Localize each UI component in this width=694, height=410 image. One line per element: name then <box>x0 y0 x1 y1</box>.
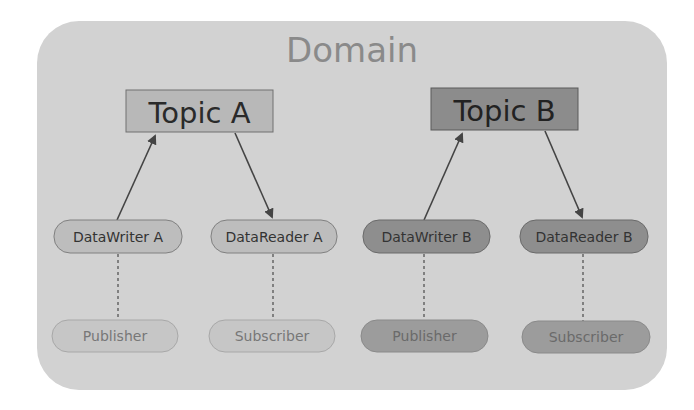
datareader-b-label: DataReader B <box>535 229 632 245</box>
topic-b-node: Topic B <box>431 88 578 130</box>
subscriber-b-node: Subscriber <box>522 321 650 353</box>
datawriter-b-label: DataWriter B <box>381 229 471 245</box>
subscriber-a-node: Subscriber <box>209 320 335 352</box>
diagram-svg: Domain Topic A Topic B DataWriter <box>0 0 694 410</box>
topic-a-node: Topic A <box>126 90 273 132</box>
publisher-a-node: Publisher <box>52 320 178 352</box>
datawriter-b-node: DataWriter B <box>363 220 490 253</box>
publisher-b-label: Publisher <box>392 328 457 344</box>
datareader-a-label: DataReader A <box>225 229 322 245</box>
dds-domain-diagram: Domain Topic A Topic B DataWriter <box>0 0 694 410</box>
publisher-b-node: Publisher <box>361 320 488 352</box>
subscriber-a-label: Subscriber <box>235 328 310 344</box>
publisher-a-label: Publisher <box>83 328 148 344</box>
datawriter-a-node: DataWriter A <box>54 220 182 253</box>
datareader-a-node: DataReader A <box>211 220 337 253</box>
datawriter-a-label: DataWriter A <box>73 229 164 245</box>
subscriber-b-label: Subscriber <box>549 329 624 345</box>
topic-b-label: Topic B <box>452 94 555 128</box>
domain-title: Domain <box>286 30 418 70</box>
topic-a-label: Topic A <box>148 96 251 130</box>
datareader-b-node: DataReader B <box>520 220 648 253</box>
